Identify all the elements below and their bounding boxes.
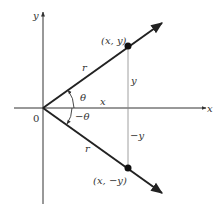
diagram-canvas: y x 0 (x, y) (x, −y) r r θ −θ x y −y — [0, 0, 220, 215]
y-segment-label: y — [130, 75, 137, 86]
theta-arc-icon — [68, 90, 74, 108]
lower-point-label: (x, −y) — [93, 175, 127, 186]
upper-point-label: (x, y) — [101, 35, 127, 46]
y-axis-label: y — [32, 10, 39, 21]
neg-y-segment-label: −y — [130, 130, 144, 141]
x-axis-label: x — [207, 103, 213, 114]
neg-theta-label: −θ — [75, 111, 89, 122]
lower-point-dot — [125, 165, 132, 172]
theta-label: θ — [80, 92, 86, 103]
x-segment-label: x — [100, 96, 106, 107]
upper-r-label: r — [82, 62, 88, 73]
neg-theta-arc-icon — [67, 108, 72, 124]
origin-label: 0 — [33, 113, 39, 124]
lower-r-label: r — [85, 143, 91, 154]
